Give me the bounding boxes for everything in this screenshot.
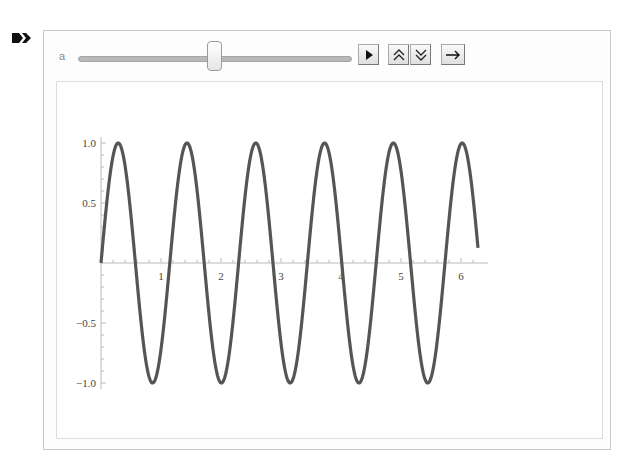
- x-tick-label: 1: [158, 270, 164, 282]
- variable-label: a: [59, 50, 65, 62]
- x-tick-label: 3: [278, 270, 284, 282]
- direction-button[interactable]: [441, 44, 465, 65]
- slider-thumb[interactable]: [207, 41, 222, 71]
- double-chevron-down-icon: [415, 49, 427, 61]
- sine-plot: 1234561.00.5−0.5−1.0: [57, 82, 602, 438]
- y-tick-label: −0.5: [76, 317, 96, 329]
- manipulate-panel: a 1234561.00.5−0.5−1.0: [43, 30, 611, 450]
- double-chevron-up-icon: [393, 49, 405, 61]
- faster-button[interactable]: [388, 44, 409, 65]
- y-tick-label: 0.5: [82, 197, 96, 209]
- play-button[interactable]: [358, 44, 379, 65]
- play-icon: [364, 49, 374, 61]
- control-row: a: [44, 31, 610, 81]
- arrow-right-icon: [445, 50, 461, 60]
- slower-button[interactable]: [410, 44, 431, 65]
- x-tick-label: 6: [458, 270, 464, 282]
- x-tick-label: 5: [398, 270, 404, 282]
- y-tick-label: 1.0: [82, 137, 96, 149]
- plot-area: 1234561.00.5−0.5−1.0: [56, 81, 603, 439]
- x-tick-label: 2: [218, 270, 224, 282]
- cell-output-arrow-icon[interactable]: [12, 30, 34, 42]
- y-tick-label: −1.0: [76, 377, 96, 389]
